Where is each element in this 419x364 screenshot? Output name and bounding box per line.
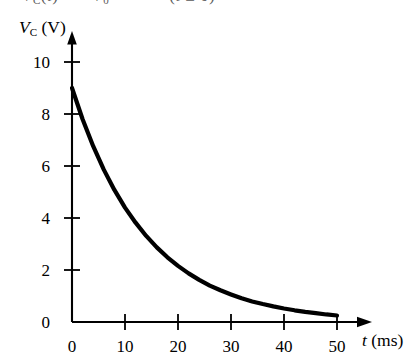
x-tick-label-20: 20: [165, 338, 191, 355]
y-tick-label-10: 10: [24, 54, 50, 71]
y-axis: [67, 31, 77, 322]
y-tick-label-2: 2: [24, 262, 50, 279]
y-axis-unit: (V): [41, 17, 65, 37]
x-axis-arrowhead: [357, 317, 372, 327]
y-tick-label-0: 0: [24, 314, 50, 331]
y-axis-title: VC (V): [19, 19, 66, 38]
x-tick-label-40: 40: [271, 338, 297, 355]
x-axis-unit: (ms): [371, 330, 403, 350]
x-axis: [72, 317, 372, 327]
y-axis-arrowhead: [67, 31, 77, 45]
y-tick-label-6: 6: [24, 158, 50, 175]
discharge-curve: [72, 88, 337, 316]
capacitor-discharge-chart: [0, 0, 419, 364]
x-tick-label-50: 50: [324, 338, 350, 355]
y-axis-subscript: C: [30, 26, 37, 38]
x-tick-label-0: 0: [59, 338, 85, 355]
x-tick-label-30: 30: [218, 338, 244, 355]
x-tick-label-10: 10: [112, 338, 138, 355]
chart-svg: [0, 0, 419, 364]
y-tick-label-4: 4: [24, 210, 50, 227]
y-tick-label-8: 8: [24, 106, 50, 123]
x-axis-title: t (ms): [362, 332, 403, 350]
